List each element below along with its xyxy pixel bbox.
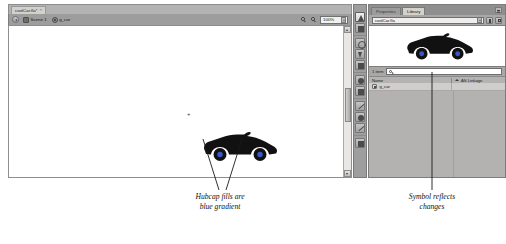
tools-group-select <box>354 10 366 36</box>
tools-group-paint <box>354 99 366 136</box>
symbol-note-line1: Symbol reflects <box>372 192 492 202</box>
zoom-level-value: 100% <box>323 17 334 22</box>
library-item-linkage-cell <box>451 83 505 90</box>
tab-properties[interactable]: Properties <box>371 7 401 15</box>
tools-group-shapes <box>354 73 366 99</box>
symbol-icon <box>52 17 58 23</box>
zoom-level-select[interactable]: 100% <box>320 16 348 24</box>
symbol-note-annotation: Symbol reflects changes <box>372 192 492 212</box>
eyedropper-tool[interactable] <box>355 123 365 133</box>
pencil-icon <box>358 104 364 110</box>
tools-panel <box>353 4 367 178</box>
search-icon <box>389 70 393 74</box>
column-header-linkage-label: AS Linkage <box>461 78 482 83</box>
rectangle-icon <box>358 89 364 95</box>
document-tab-coolcar[interactable]: coolCar.fla* × <box>11 6 46 14</box>
library-item-count: 1 item <box>372 69 383 74</box>
library-document-row: coolCar.fla <box>369 15 505 25</box>
library-preview-car-silhouette <box>381 28 493 64</box>
paint-bucket-tool[interactable] <box>355 112 365 122</box>
movieclip-symbol-icon <box>372 84 377 89</box>
stage-canvas[interactable]: + <box>9 26 343 177</box>
text-tool[interactable] <box>355 60 365 70</box>
selection-tool[interactable] <box>355 12 365 22</box>
rectangle-tool[interactable] <box>355 86 365 96</box>
column-header-name[interactable]: Name <box>369 78 451 83</box>
stage-vertical-scrollbar[interactable] <box>343 26 351 177</box>
oval-tool[interactable] <box>355 75 365 85</box>
library-search-input[interactable] <box>386 68 502 75</box>
zoom-in-icon[interactable] <box>310 16 317 23</box>
back-button[interactable] <box>12 16 19 23</box>
chevron-down-icon[interactable] <box>341 17 346 23</box>
tools-group-draw <box>354 36 366 73</box>
arrow-icon <box>358 15 364 21</box>
square-icon <box>358 26 364 32</box>
symbol-note-line2: changes <box>372 202 492 212</box>
scene-icon <box>23 17 29 23</box>
scroll-down-icon[interactable] <box>344 170 351 177</box>
hubcap-note-annotation: Hubcap fills are blue gradient <box>150 192 290 212</box>
tools-group-view <box>354 136 366 150</box>
hand-tool[interactable] <box>355 138 365 148</box>
pencil-tool[interactable] <box>355 101 365 111</box>
library-item-name-cell: g_car <box>369 84 451 89</box>
text-icon <box>358 63 364 69</box>
library-item-name: g_car <box>379 84 389 89</box>
tab-properties-label: Properties <box>376 9 396 14</box>
hubcap-note-line2: blue gradient <box>150 202 290 212</box>
dropper-icon <box>358 126 364 132</box>
stage-container: + <box>8 25 352 178</box>
circle-icon <box>358 78 364 84</box>
column-header-linkage[interactable]: AS Linkage <box>451 78 505 83</box>
edit-bar: Scene 1 g_car 100% <box>8 14 352 25</box>
free-transform-tool[interactable] <box>355 23 365 33</box>
car-silhouette-artwork[interactable] <box>194 126 280 166</box>
panel-tab-strip: Properties Library <box>369 5 505 15</box>
pen-icon <box>358 52 362 58</box>
library-preview-pane <box>369 25 505 67</box>
pin-icon[interactable] <box>486 17 493 24</box>
hand-icon <box>358 141 364 147</box>
pen-tool[interactable] <box>355 49 365 59</box>
library-item-list[interactable]: g_car <box>369 83 505 177</box>
zoom-out-icon[interactable] <box>300 16 307 23</box>
tab-library-label: Library <box>407 9 420 14</box>
breadcrumb-item-scene[interactable]: Scene 1 <box>23 17 47 23</box>
lasso-icon <box>358 41 366 49</box>
flash-application-window: coolCar.fla* × Scene 1 g_car 100% + <box>8 4 498 178</box>
library-list-item-gcar[interactable]: g_car <box>369 83 505 91</box>
scrollbar-thumb[interactable] <box>345 88 351 122</box>
library-document-value: coolCar.fla <box>375 18 395 23</box>
hubcap-note-line1: Hubcap fills are <box>150 192 290 202</box>
list-column-divider <box>453 91 454 177</box>
panel-menu-icon[interactable] <box>495 7 502 13</box>
bucket-icon <box>358 115 364 121</box>
breadcrumb-item-symbol[interactable]: g_car <box>52 17 70 23</box>
library-count-row: 1 item <box>369 67 505 76</box>
library-document-select[interactable]: coolCar.fla <box>372 17 484 24</box>
breadcrumb-scene-label: Scene 1 <box>31 17 47 22</box>
edit-bar-controls: 100% <box>300 16 348 24</box>
document-tab-bar: coolCar.fla* × <box>8 4 352 14</box>
breadcrumb-symbol-label: g_car <box>59 17 70 22</box>
lasso-tool[interactable] <box>355 38 365 48</box>
document-tab-label: coolCar.fla* <box>15 8 37 13</box>
scroll-up-icon[interactable] <box>344 26 351 33</box>
registration-point-icon: + <box>187 111 191 117</box>
close-icon[interactable]: × <box>39 8 41 12</box>
tab-library[interactable]: Library <box>402 7 425 15</box>
sort-ascending-icon <box>455 79 459 81</box>
library-panel: Properties Library coolCar.fla <box>368 4 506 178</box>
new-library-panel-icon[interactable] <box>495 17 502 24</box>
chevron-down-icon[interactable] <box>477 17 482 22</box>
